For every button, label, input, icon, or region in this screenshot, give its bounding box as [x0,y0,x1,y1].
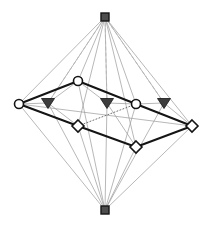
diagram-canvas [0,0,205,226]
apex-edge-bottom-t2 [105,103,107,210]
apex-edge-bottom-d3 [105,126,192,210]
highlight-cycle-path [19,81,192,147]
edge-t2-d2 [107,103,136,147]
edge-t1-d1 [48,103,78,126]
lattice-graph [0,0,205,226]
apex-edge-top-c1 [19,17,105,104]
cycle-edge-d2-d1 [78,126,136,147]
apex-edge-bottom-t3 [105,103,164,210]
node-c3-circle-icon [132,100,141,109]
dashed-edge-top-t2 [105,17,107,103]
node-c1-circle-icon [15,100,24,109]
apex-edge-bottom-d1 [78,126,105,210]
cycle-edge-d3-d2 [136,126,192,147]
node-c2-circle-icon [74,77,83,86]
node-d1-diamond-icon [72,120,84,132]
edge-t3-d3 [164,103,192,126]
node-top-square-icon [101,13,109,21]
apex-edge-top-c3 [105,17,136,104]
node-bottom-square-icon [101,206,109,214]
node-d2-diamond-icon [130,141,142,153]
apex-edge-bottom-c2 [78,81,105,210]
